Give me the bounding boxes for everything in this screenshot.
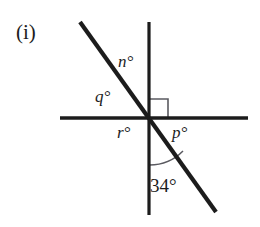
- part-label: (i): [16, 22, 36, 43]
- geometry-diagram-canvas: [0, 0, 260, 227]
- right-angle-square-marker: [149, 99, 168, 118]
- angle-label-q: q°: [95, 88, 110, 105]
- angle-label-n: n°: [118, 53, 133, 70]
- angle-label-p: p°: [172, 124, 187, 141]
- angle-label-34: 34°: [150, 176, 177, 195]
- geometry-figure: (i) n° q° r° p° 34°: [0, 0, 260, 227]
- angle-label-r: r°: [117, 124, 130, 141]
